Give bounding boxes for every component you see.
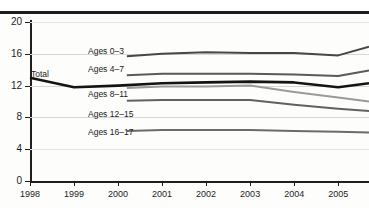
series-label-ages-4-7: Ages 4–7	[88, 65, 124, 74]
series-line-ages-16-17	[127, 130, 369, 132]
series-line-ages-0-3	[127, 47, 369, 57]
bottom-edge	[0, 209, 369, 213]
series-label-ages-8-11: Ages 8–11	[88, 90, 128, 99]
series-line-ages-12-15	[127, 100, 369, 111]
series-line-ages-4-7	[127, 70, 369, 76]
chart-root: 048121620 199819992000200120022003200420…	[0, 0, 369, 213]
series-label-ages-0-3: Ages 0–3	[88, 47, 124, 56]
series-layer	[0, 0, 369, 213]
series-label-total: Total	[31, 69, 49, 79]
series-label-ages-16-17: Ages 16–17	[88, 128, 133, 137]
series-label-ages-12-15: Ages 12–15	[88, 110, 133, 119]
